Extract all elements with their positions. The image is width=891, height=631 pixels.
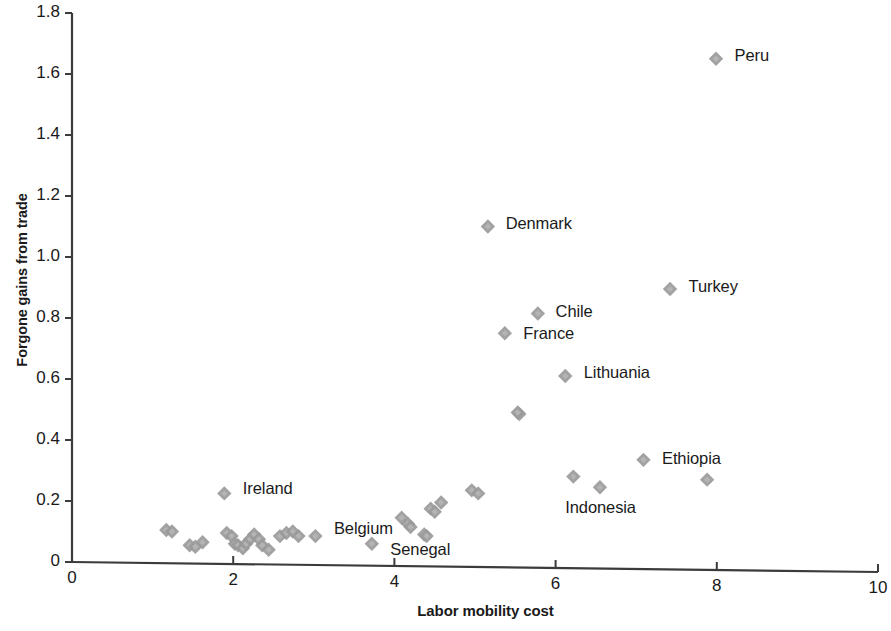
x-tick-label: 10 bbox=[858, 578, 891, 598]
x-tick-label: 6 bbox=[536, 574, 576, 594]
point-label-ethiopia: Ethiopia bbox=[662, 449, 721, 468]
x-axis-title: Labor mobility cost bbox=[0, 602, 891, 619]
plot-canvas bbox=[0, 0, 891, 631]
point-label-ireland: Ireland bbox=[243, 479, 293, 498]
x-tick-label: 2 bbox=[213, 570, 253, 590]
point-label-denmark: Denmark bbox=[506, 214, 572, 233]
x-tick-label: 4 bbox=[374, 572, 414, 592]
x-tick-label: 0 bbox=[52, 568, 92, 588]
point-label-senegal: Senegal bbox=[390, 540, 450, 559]
scatter-chart-figure: 00.20.40.60.81.01.21.41.61.8 0246810 Per… bbox=[0, 0, 891, 631]
point-label-indonesia: Indonesia bbox=[565, 498, 636, 517]
point-label-turkey: Turkey bbox=[689, 277, 738, 296]
point-label-peru: Peru bbox=[735, 46, 769, 65]
y-tick-label: 1.8 bbox=[16, 2, 60, 22]
x-tick-label: 8 bbox=[697, 576, 737, 596]
point-label-lithuania: Lithuania bbox=[584, 363, 650, 382]
x-axis-line bbox=[72, 562, 878, 572]
point-label-belgium: Belgium bbox=[334, 519, 393, 538]
y-axis-title: Forgone gains from trade bbox=[14, 60, 30, 500]
point-label-france: France bbox=[523, 324, 574, 343]
point-label-chile: Chile bbox=[556, 302, 593, 321]
